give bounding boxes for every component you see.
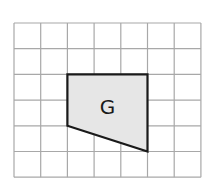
grid-diagram: G <box>0 0 208 188</box>
shape-label: G <box>100 95 116 119</box>
